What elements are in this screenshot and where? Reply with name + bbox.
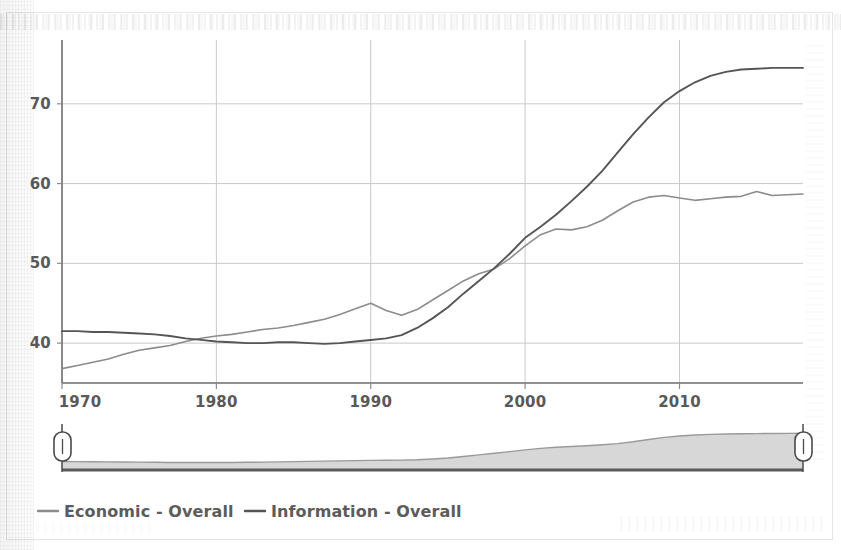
x-axis-label-1990: 1990 — [349, 393, 392, 411]
chart-container: 40506070 19701980199020002010 — [0, 0, 841, 550]
x-axis-label-2000: 2000 — [504, 393, 547, 411]
x-axis-tick-labels: 19701980199020002010 — [59, 393, 701, 411]
y-axis-label-50: 50 — [30, 254, 51, 272]
horizontal-gridlines — [62, 104, 803, 343]
range-navigator[interactable] — [54, 424, 812, 472]
series-line-information-overall — [62, 68, 803, 344]
y-axis-label-60: 60 — [30, 175, 51, 193]
series-line-economic-overall — [62, 192, 803, 369]
x-axis-label-1980: 1980 — [195, 393, 238, 411]
vertical-gridlines — [216, 40, 679, 383]
x-axis-label-1970: 1970 — [59, 393, 102, 411]
line-chart: 40506070 19701980199020002010 — [0, 0, 841, 550]
legend-item-information[interactable]: Information - Overall — [245, 502, 462, 521]
legend-label-information: Information - Overall — [271, 502, 462, 521]
x-axis-ticks — [62, 383, 680, 389]
data-series-group — [62, 68, 803, 369]
legend-item-economic[interactable]: Economic - Overall — [38, 502, 234, 521]
y-axis-tick-labels: 40506070 — [30, 95, 51, 352]
y-axis-label-70: 70 — [30, 95, 51, 113]
y-axis-label-40: 40 — [30, 334, 51, 352]
x-axis-label-2010: 2010 — [658, 393, 701, 411]
legend-label-economic: Economic - Overall — [64, 502, 234, 521]
navigator-area-fill — [62, 433, 803, 470]
chart-legend: Economic - Overall Information - Overall — [38, 502, 462, 521]
